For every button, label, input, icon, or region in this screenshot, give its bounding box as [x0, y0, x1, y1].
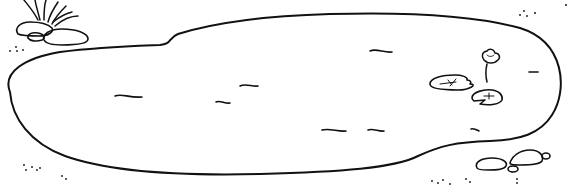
- pond-outline: [8, 13, 560, 174]
- lotus-stem: [486, 64, 487, 82]
- rocks-bottom-right: [476, 150, 550, 172]
- ripple-icon: [471, 129, 479, 131]
- dots-top-left: [9, 46, 24, 52]
- pebble-icon: [542, 153, 550, 159]
- pond-scene-svg: [0, 0, 575, 190]
- ripple-icon: [370, 50, 392, 52]
- lily-pad-vein: [440, 79, 456, 86]
- dots-top-right: [519, 4, 567, 17]
- pond-illustration: Pond line drawing: [0, 0, 575, 190]
- pebble-dot-clusters: [9, 4, 567, 185]
- lily-pad-icon: [472, 90, 502, 105]
- rock-icon: [476, 158, 506, 170]
- ripple-icon: [322, 129, 346, 131]
- pebble-icon: [508, 166, 518, 172]
- ripple-icon: [240, 85, 258, 86]
- ripple-icon: [216, 101, 230, 103]
- ripple-icon: [368, 129, 384, 131]
- rock-icon: [510, 150, 543, 165]
- rock-icon: [44, 29, 88, 45]
- ripple-icon: [115, 95, 142, 97]
- dots-bottom-middle: [431, 178, 471, 185]
- lotus-flower-icon: [482, 49, 499, 82]
- rock-icon: [28, 33, 44, 41]
- water-ripples: [115, 50, 538, 131]
- lily-pads: [430, 75, 502, 105]
- dots-bottom-right: [516, 178, 518, 184]
- dots-bottom-left: [23, 164, 67, 180]
- rock-icon: [17, 22, 53, 36]
- lotus-petals: [482, 49, 499, 63]
- lily-pad-vein: [484, 93, 494, 99]
- rocks-top-left: [17, 22, 88, 45]
